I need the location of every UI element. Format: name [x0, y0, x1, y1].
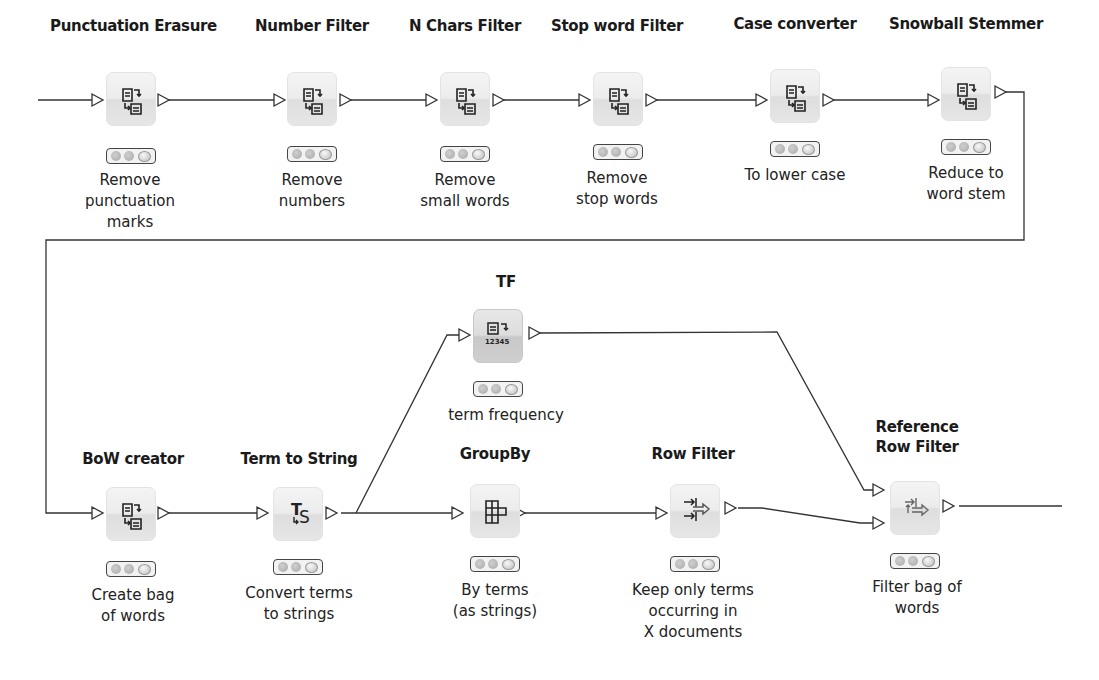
status-indicator [106, 561, 156, 577]
node-body[interactable] [106, 72, 156, 126]
status-indicator [287, 146, 337, 162]
node-body[interactable] [770, 69, 820, 123]
node-title: Number Filter [232, 16, 392, 36]
node-body[interactable] [440, 72, 490, 126]
term-frequency-icon: 12345 [474, 310, 524, 364]
node-body[interactable] [670, 484, 720, 538]
node-body[interactable] [593, 72, 643, 126]
node-title: TF [426, 272, 586, 292]
document-transform-icon [771, 70, 821, 124]
node-description: Create bag of words [53, 585, 213, 627]
status-indicator [770, 141, 820, 157]
reference-row-filter-icon [891, 482, 941, 536]
document-transform-icon [594, 73, 644, 127]
node-description: To lower case [715, 165, 875, 186]
node-description: Reduce to word stem [886, 163, 1046, 205]
svg-text:12345: 12345 [485, 338, 509, 346]
node-description: Keep only terms occurring in X documents [613, 580, 773, 643]
node-body[interactable] [941, 67, 991, 121]
node-description: By terms (as strings) [415, 580, 575, 622]
status-indicator [941, 139, 991, 155]
status-indicator [273, 559, 323, 575]
node-title: Case converter [715, 14, 875, 34]
node-body[interactable] [470, 484, 520, 538]
document-transform-icon [107, 488, 157, 542]
node-title: BoW creator [53, 449, 213, 469]
node-description: Remove numbers [232, 170, 392, 212]
wire-tf-reference [538, 332, 874, 490]
node-title: Term to String [219, 449, 379, 469]
node-title: Row Filter [613, 444, 773, 464]
document-transform-icon [107, 73, 157, 127]
term-to-string-icon: T S [274, 488, 324, 542]
status-indicator [470, 556, 520, 572]
document-transform-icon [288, 73, 338, 127]
status-indicator [473, 381, 523, 397]
node-description: Remove punctuation marks [50, 170, 210, 233]
node-description: Convert terms to strings [219, 583, 379, 625]
document-transform-icon [441, 73, 491, 127]
workflow-canvas[interactable]: Punctuation Erasure Remove punctuation m… [0, 0, 1099, 680]
node-description: Remove stop words [537, 168, 697, 210]
node-body[interactable] [890, 481, 940, 535]
status-indicator [670, 556, 720, 572]
node-title: Stop word Filter [537, 16, 697, 36]
node-title: Punctuation Erasure [50, 16, 210, 36]
status-indicator [106, 148, 156, 164]
status-indicator [890, 553, 940, 569]
wire-rowfilter-reference [738, 508, 874, 523]
status-indicator [440, 146, 490, 162]
svg-text:S: S [299, 507, 310, 527]
status-indicator [593, 144, 643, 160]
groupby-grid-icon [471, 485, 521, 539]
node-body[interactable] [287, 72, 337, 126]
node-description: term frequency [426, 405, 586, 426]
node-body[interactable] [106, 487, 156, 541]
node-title: Snowball Stemmer [886, 14, 1046, 34]
node-description: Filter bag of words [837, 577, 997, 619]
node-title: Reference Row Filter [837, 417, 997, 457]
node-description: Remove small words [385, 170, 545, 212]
node-title: N Chars Filter [385, 16, 545, 36]
node-title: GroupBy [415, 444, 575, 464]
document-transform-icon [942, 68, 992, 122]
row-filter-icon [671, 485, 721, 539]
node-body[interactable]: T S [273, 487, 323, 541]
node-body[interactable]: 12345 [473, 309, 523, 363]
